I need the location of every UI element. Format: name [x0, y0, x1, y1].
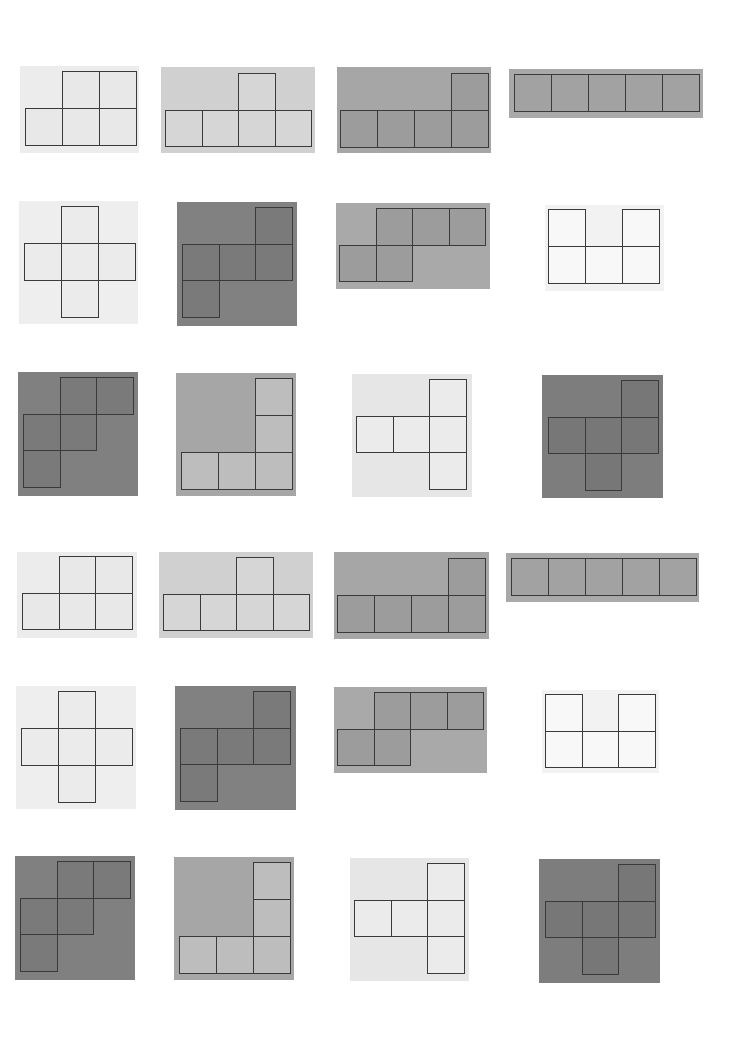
net-card-r3c4 — [542, 375, 663, 498]
net-square — [275, 110, 313, 148]
net-square — [217, 728, 255, 766]
net-square — [99, 108, 137, 146]
net-square — [585, 558, 623, 596]
net-square — [337, 595, 375, 633]
net-card-r5c1 — [16, 686, 136, 809]
net-square — [180, 764, 218, 802]
net-square — [58, 765, 96, 803]
net-square — [58, 691, 96, 729]
net-square — [273, 594, 311, 632]
net-card-r6c4 — [539, 859, 660, 983]
net-card-r2c3 — [336, 203, 490, 289]
net-square — [391, 900, 429, 938]
net-square — [582, 731, 620, 769]
net-square — [57, 861, 95, 899]
net-square — [216, 936, 254, 974]
net-square — [449, 208, 487, 246]
net-square — [340, 110, 378, 148]
net-square — [374, 595, 412, 633]
net-square — [374, 692, 412, 730]
net-square — [451, 73, 489, 111]
net-square — [376, 208, 414, 246]
net-square — [339, 245, 377, 283]
net-square — [95, 556, 133, 594]
net-square — [253, 691, 291, 729]
net-card-r4c4 — [506, 553, 699, 602]
net-square — [61, 206, 99, 244]
net-square — [93, 861, 131, 899]
net-square — [585, 417, 623, 455]
net-card-r1c3 — [337, 67, 491, 153]
net-square — [374, 729, 412, 767]
net-square — [429, 416, 467, 454]
net-square — [545, 694, 583, 732]
net-square — [24, 243, 62, 281]
net-square — [414, 110, 452, 148]
net-square — [511, 558, 549, 596]
net-square — [95, 593, 133, 631]
net-card-r5c3 — [334, 687, 487, 773]
net-square — [219, 244, 257, 282]
net-square — [448, 558, 486, 596]
net-card-r5c2 — [175, 686, 296, 810]
net-square — [57, 898, 95, 936]
net-square — [448, 595, 486, 633]
net-square — [354, 900, 392, 938]
net-card-r5c4 — [542, 690, 659, 773]
net-square — [22, 593, 60, 631]
net-square — [582, 901, 620, 939]
net-card-r1c2 — [161, 67, 315, 153]
net-card-r1c1 — [20, 66, 139, 153]
net-square — [429, 452, 467, 490]
net-card-r6c2 — [174, 857, 294, 980]
net-square — [182, 244, 220, 282]
net-card-r3c2 — [176, 373, 296, 496]
net-square — [202, 110, 240, 148]
net-square — [255, 244, 293, 282]
net-square — [377, 110, 415, 148]
net-square — [393, 416, 431, 454]
net-square — [236, 594, 274, 632]
net-square — [96, 377, 134, 415]
net-card-r6c3 — [350, 858, 469, 981]
net-square — [165, 110, 203, 148]
net-square — [238, 110, 276, 148]
net-square — [23, 414, 61, 452]
net-square — [61, 243, 99, 281]
net-card-r3c1 — [18, 372, 138, 496]
net-square — [59, 556, 97, 594]
net-square — [585, 246, 623, 284]
net-square — [548, 558, 586, 596]
net-square — [621, 417, 659, 455]
net-square — [427, 900, 465, 938]
net-square — [253, 862, 291, 900]
net-square — [20, 898, 58, 936]
net-card-r2c4 — [545, 205, 664, 291]
net-square — [545, 731, 583, 769]
net-square — [163, 594, 201, 632]
net-card-r2c2 — [177, 202, 297, 326]
net-square — [255, 378, 293, 416]
net-square — [545, 901, 583, 939]
net-square — [411, 595, 449, 633]
net-square — [21, 728, 59, 766]
net-square — [618, 864, 656, 902]
net-square — [427, 936, 465, 974]
net-square — [20, 934, 58, 972]
net-card-r1c4 — [509, 69, 703, 118]
net-square — [451, 110, 489, 148]
net-square — [179, 936, 217, 974]
net-square — [59, 593, 97, 631]
net-square — [62, 108, 100, 146]
net-square — [410, 692, 448, 730]
net-square — [200, 594, 238, 632]
net-square — [58, 728, 96, 766]
net-square — [447, 692, 485, 730]
net-card-r6c1 — [15, 856, 135, 980]
net-square — [253, 899, 291, 937]
net-square — [622, 246, 660, 284]
net-square — [356, 416, 394, 454]
net-square — [659, 558, 697, 596]
net-square — [412, 208, 450, 246]
net-square — [618, 901, 656, 939]
